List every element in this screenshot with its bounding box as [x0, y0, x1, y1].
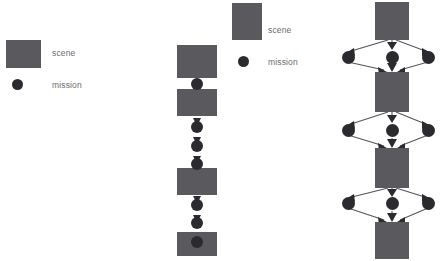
legend-scene-swatch [6, 40, 41, 68]
scene-mission-diagram: scene mission scene mission [0, 0, 444, 261]
mission-node [422, 51, 435, 64]
mission-node [191, 236, 203, 248]
scene-node [375, 148, 409, 188]
mission-node [342, 124, 355, 137]
mission-node [422, 197, 435, 210]
branching-graph-panel [330, 0, 444, 261]
mission-node [342, 197, 355, 210]
scene-node [177, 89, 217, 116]
mission-node [386, 51, 399, 64]
linear-chain-panel: scene mission [160, 0, 330, 261]
legend-only-panel: scene mission [0, 0, 160, 261]
mission-node [422, 124, 435, 137]
legend-mission-swatch [238, 56, 249, 67]
mission-node [191, 217, 203, 229]
legend-mission-swatch [12, 79, 23, 90]
scene-node [177, 45, 217, 78]
legend-scene-label: scene [268, 25, 291, 35]
scene-node [375, 72, 409, 112]
scene-node [177, 168, 217, 195]
legend-scene-label: scene [52, 48, 75, 58]
legend-mission-label: mission [268, 57, 298, 67]
mission-node [191, 199, 203, 211]
mission-node [191, 78, 203, 90]
legend-mission-label: mission [52, 80, 82, 90]
mission-node [386, 197, 399, 210]
legend-scene-swatch [232, 3, 262, 40]
mission-node [191, 121, 203, 133]
scene-node [375, 222, 409, 259]
scene-node [375, 2, 409, 40]
mission-node [191, 140, 203, 152]
mission-node [386, 124, 399, 137]
mission-node [191, 158, 203, 170]
mission-node [342, 51, 355, 64]
